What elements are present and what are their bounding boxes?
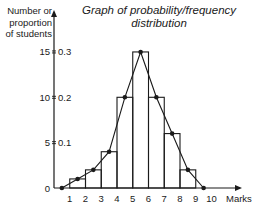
x-tick-label: 2 bbox=[83, 193, 88, 204]
y-tick-proportion-label: 0.1 bbox=[58, 137, 71, 148]
data-point-marker bbox=[154, 95, 159, 100]
x-tick-label: 7 bbox=[162, 193, 167, 204]
x-axis-arrow-icon bbox=[235, 185, 242, 191]
histogram-bar bbox=[164, 134, 180, 188]
x-tick-label: 5 bbox=[130, 193, 135, 204]
y-tick-label: 10 bbox=[39, 92, 50, 103]
histogram-bar bbox=[133, 52, 149, 188]
data-point-marker bbox=[138, 50, 143, 55]
histogram-bar bbox=[101, 152, 117, 188]
x-tick-label: 10 bbox=[206, 193, 217, 204]
x-tick-label: 1 bbox=[67, 193, 72, 204]
x-tick-label: 6 bbox=[146, 193, 151, 204]
data-point-marker bbox=[91, 168, 96, 173]
data-point-marker bbox=[170, 131, 175, 136]
x-tick-label: 9 bbox=[193, 193, 198, 204]
data-point-marker bbox=[107, 149, 112, 154]
y-tick-label: 15 bbox=[39, 46, 50, 57]
data-point-marker bbox=[186, 168, 191, 173]
data-point-marker bbox=[75, 177, 80, 182]
chart-plot: 050.1100.2150.312345678910Marks bbox=[0, 0, 254, 208]
x-axis-label: Marks bbox=[226, 193, 252, 204]
y-tick-proportion-label: 0.2 bbox=[58, 92, 71, 103]
y-tick-label: 0 bbox=[45, 183, 50, 194]
x-tick-label: 8 bbox=[177, 193, 182, 204]
y-tick-proportion-label: 0.3 bbox=[58, 46, 71, 57]
y-tick-label: 5 bbox=[45, 137, 50, 148]
x-tick-label: 3 bbox=[99, 193, 104, 204]
data-point-marker bbox=[201, 186, 206, 191]
data-point-marker bbox=[123, 95, 128, 100]
data-point-marker bbox=[60, 186, 65, 191]
histogram-bar bbox=[180, 170, 196, 188]
y-axis-arrow-icon bbox=[51, 10, 57, 17]
histogram-bar bbox=[117, 97, 133, 188]
x-tick-label: 4 bbox=[114, 193, 119, 204]
